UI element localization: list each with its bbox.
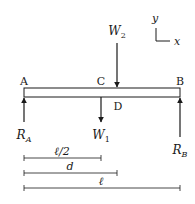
dimension-label-d: d bbox=[66, 160, 73, 173]
point-d-label: D bbox=[114, 100, 123, 113]
w1-label: W1 bbox=[92, 128, 109, 144]
dimension-label-length: ℓ bbox=[99, 175, 104, 188]
rb-label: RB bbox=[172, 143, 188, 159]
force-ra: RA bbox=[16, 98, 32, 144]
beam-diagram: y x A C B D W2 W1 RA RB ℓ/2 d bbox=[0, 0, 195, 204]
point-c-label: C bbox=[97, 75, 105, 88]
beam bbox=[24, 88, 180, 97]
coordinate-axes: y x bbox=[151, 12, 181, 48]
point-a-label: A bbox=[19, 75, 29, 88]
point-b-label: B bbox=[176, 75, 184, 88]
y-axis-label: y bbox=[151, 12, 159, 25]
force-w1: W1 bbox=[92, 97, 109, 144]
dimension-length: ℓ bbox=[24, 175, 180, 191]
dimension-label-half-length: ℓ/2 bbox=[54, 145, 69, 158]
force-rb: RB bbox=[172, 98, 188, 159]
dimension-half-length: ℓ/2 bbox=[24, 145, 101, 161]
x-axis-label: x bbox=[174, 35, 181, 48]
dimension-d: d bbox=[24, 160, 117, 176]
force-w2: W2 bbox=[108, 24, 125, 87]
ra-label: RA bbox=[16, 128, 32, 144]
w2-label: W2 bbox=[108, 24, 125, 40]
